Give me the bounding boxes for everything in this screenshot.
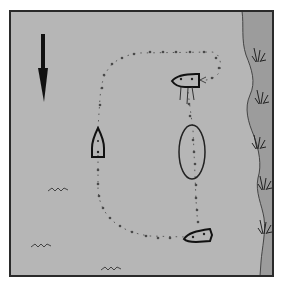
boating-diagram: [0, 0, 288, 301]
water-area: [10, 11, 273, 276]
